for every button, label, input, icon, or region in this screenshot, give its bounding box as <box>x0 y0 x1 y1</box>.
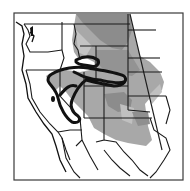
map-canvas <box>0 0 190 191</box>
range-map <box>0 0 190 191</box>
